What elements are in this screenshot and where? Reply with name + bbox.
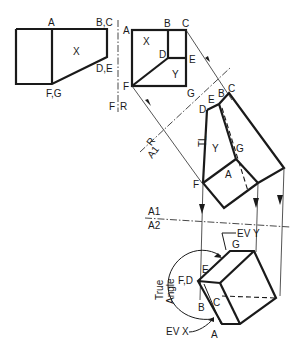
leader-ev-x <box>189 319 213 332</box>
label-front-bc: B,C <box>96 17 113 28</box>
projection-line-g <box>256 183 258 252</box>
label-front-fg: F,G <box>46 88 62 99</box>
right-side-view: A B C D E F G X Y <box>123 18 196 99</box>
label-fold-a2: A2 <box>148 220 161 231</box>
projection-line-f <box>132 86 202 183</box>
label-right-e: E <box>189 54 196 65</box>
label-fold-r: R <box>120 101 127 112</box>
label-ev-y: EV Y <box>237 228 260 239</box>
label-aux2-c: C <box>213 297 220 308</box>
front-view-outline <box>16 29 107 84</box>
label-aux1-f: F <box>193 179 199 190</box>
label-right-d: D <box>159 49 166 60</box>
label-right-a: A <box>123 25 130 36</box>
label-aux1-e: E <box>208 94 215 105</box>
aux2-outline <box>198 251 276 324</box>
label-aux2-fd: F,D <box>178 275 193 286</box>
label-right-b: B <box>164 18 171 29</box>
auxiliary-view-2: G E F,D B C A EV Y EV X True Angle <box>154 228 276 340</box>
label-aux1-a: A <box>225 169 232 180</box>
projection-arrow-g <box>253 198 259 208</box>
label-aux1-g: G <box>236 143 244 154</box>
aux1-edge-eg <box>219 104 236 159</box>
label-aux2-a: A <box>211 329 218 340</box>
fold-line-a1-a2: A1 A2 <box>145 206 290 231</box>
label-aux1-b: B <box>218 88 225 99</box>
projection-line-c2 <box>280 168 284 296</box>
label-right-surface-y: Y <box>172 69 179 80</box>
label-aux1-d: D <box>199 104 206 115</box>
label-aux2-e: E <box>202 264 209 275</box>
auxiliary-view-drawing: A B,C D,E F,G X F R A B C D E F G X Y R … <box>0 0 303 356</box>
label-fold-f: F <box>109 101 115 112</box>
label-aux2-g: G <box>232 239 240 250</box>
auxiliary-view-1: C B E D G A F Y TL <box>193 83 284 208</box>
label-aux1-c: C <box>228 83 235 94</box>
label-right-g: G <box>187 88 195 99</box>
label-true: True <box>154 279 165 300</box>
label-front-surface-x: X <box>73 46 80 57</box>
projection-arrow-c <box>205 56 210 62</box>
label-right-f: F <box>123 81 129 92</box>
label-aux1-surface-y: Y <box>212 143 219 154</box>
projection-arrow-fd <box>199 204 205 214</box>
aux2-hidden-edge <box>222 296 276 298</box>
label-angle: Angle <box>165 278 176 304</box>
projection-arrow-c2 <box>277 195 283 205</box>
aux2-edge-fd-c <box>198 281 220 283</box>
label-fold-a1-2: A1 <box>148 206 161 217</box>
front-view: A B,C D,E F,G X <box>16 17 113 99</box>
label-aux2-b: B <box>198 302 205 313</box>
label-front-de: D,E <box>96 63 113 74</box>
label-right-surface-x: X <box>143 36 150 47</box>
label-right-c: C <box>182 18 189 29</box>
label-front-a: A <box>48 17 55 28</box>
label-aux1-true-length: TL <box>197 135 208 147</box>
right-view-edge-fd <box>132 58 168 86</box>
label-fold-a1: A1 <box>145 143 161 160</box>
aux2-edge-c-a <box>220 283 240 324</box>
label-ev-x: EV X <box>166 326 189 337</box>
